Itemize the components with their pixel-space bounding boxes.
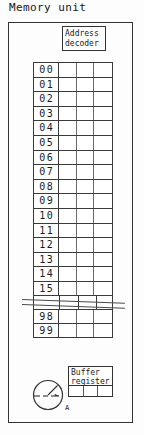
memory-cell: [94, 107, 112, 121]
memory-row: 03: [33, 106, 113, 121]
memory-cell: [59, 209, 77, 223]
memory-cell: [77, 136, 95, 150]
memory-cell: [77, 180, 95, 194]
memory-cell: [59, 136, 77, 150]
memory-cell: [94, 224, 112, 238]
memory-cell: [59, 121, 77, 135]
memory-row: 00: [33, 62, 113, 77]
memory-cell: [59, 165, 77, 179]
memory-cell: [77, 63, 95, 77]
memory-row-address: 12: [34, 238, 59, 252]
memory-cell: [59, 92, 77, 106]
memory-matrix: 00010203040506070809101112131415 9899: [33, 62, 113, 338]
memory-row: 15: [33, 281, 113, 296]
memory-cell: [59, 310, 77, 324]
memory-row: 06: [33, 150, 113, 165]
memory-cell: [94, 253, 112, 267]
memory-row: 11: [33, 223, 113, 238]
memory-cell: [59, 194, 77, 208]
memory-cell: [77, 282, 95, 295]
memory-row-address: 06: [34, 151, 59, 165]
memory-cell: [59, 63, 77, 77]
memory-cell: [77, 324, 95, 337]
memory-cell: [94, 121, 112, 135]
buffer-register-cell: [84, 386, 99, 396]
memory-cell: [94, 136, 112, 150]
memory-row: 02: [33, 91, 113, 106]
memory-cell: [59, 78, 77, 92]
memory-row: 09: [33, 193, 113, 208]
memory-cell: [77, 78, 95, 92]
memory-row-address: 10: [34, 209, 59, 223]
memory-row: 14: [33, 266, 113, 281]
memory-row: 99: [33, 323, 113, 338]
memory-cell: [94, 151, 112, 165]
memory-row: 08: [33, 179, 113, 194]
memory-row: 05: [33, 135, 113, 150]
memory-cell: [59, 267, 77, 281]
memory-row-address: 02: [34, 92, 59, 106]
memory-row-address: 04: [34, 121, 59, 135]
memory-cell: [77, 238, 95, 252]
memory-cell: [77, 165, 95, 179]
memory-cell: [77, 310, 95, 324]
memory-cell: [59, 238, 77, 252]
memory-row-address: 08: [34, 180, 59, 194]
memory-row-address: 09: [34, 194, 59, 208]
buffer-register-cell: [69, 386, 84, 396]
buffer-register-cells: [68, 386, 113, 397]
memory-row-address: 00: [34, 63, 59, 77]
memory-row-address: 07: [34, 165, 59, 179]
memory-row-address: 11: [34, 224, 59, 238]
memory-cell: [94, 165, 112, 179]
memory-cell: [59, 324, 77, 337]
break-line-upper: [22, 299, 125, 304]
address-decoder-box: Address decoder: [62, 26, 106, 51]
memory-row-address: 03: [34, 107, 59, 121]
memory-row-address: 15: [34, 282, 59, 295]
memory-row-address: 98: [34, 310, 59, 324]
memory-row-address: 99: [34, 324, 59, 337]
break-line-lower: [22, 304, 125, 309]
memory-cell: [59, 107, 77, 121]
buffer-register-label: Buffer register: [68, 366, 113, 386]
buffer-register-cell: [98, 386, 112, 396]
memory-row-address: 13: [34, 253, 59, 267]
memory-row: 12: [33, 237, 113, 252]
memory-cell: [94, 267, 112, 281]
memory-cell: [77, 151, 95, 165]
memory-cell: [77, 92, 95, 106]
memory-cell: [59, 180, 77, 194]
memory-cell: [77, 209, 95, 223]
memory-cell: [94, 238, 112, 252]
memory-cell: [94, 78, 112, 92]
memory-cell: [59, 151, 77, 165]
memory-unit-diagram: Memory unit Address decoder 000102030405…: [0, 0, 144, 435]
memory-cell: [77, 107, 95, 121]
page-title: Memory unit: [9, 1, 86, 14]
memory-cell: [59, 253, 77, 267]
dial-pointer-icon: [31, 378, 65, 412]
memory-cell: [94, 324, 112, 337]
memory-cell: [59, 224, 77, 238]
buffer-register: Buffer register: [68, 366, 113, 397]
memory-cell: [94, 180, 112, 194]
memory-row: 10: [33, 208, 113, 223]
memory-row: 13: [33, 252, 113, 267]
memory-row-address: 01: [34, 78, 59, 92]
memory-cell: [94, 209, 112, 223]
memory-cell: [77, 224, 95, 238]
memory-cell: [94, 310, 112, 324]
memory-row: 07: [33, 164, 113, 179]
memory-cell: [94, 92, 112, 106]
memory-cell: [94, 282, 112, 295]
memory-cell: [77, 194, 95, 208]
buffer-register-label-line2: register: [71, 377, 112, 386]
memory-row-address: 05: [34, 136, 59, 150]
memory-row: 98: [33, 309, 113, 324]
memory-row: 04: [33, 120, 113, 135]
access-symbol-label: A: [65, 404, 69, 412]
memory-cell: [94, 194, 112, 208]
memory-cell: [94, 63, 112, 77]
matrix-break: [33, 296, 113, 309]
